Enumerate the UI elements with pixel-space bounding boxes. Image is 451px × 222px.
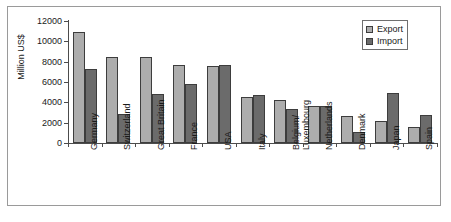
x-axis-category-label: Great Britain (156, 99, 166, 150)
category-label-line: Luxembourg (301, 100, 311, 150)
bar-export (207, 66, 219, 143)
x-axis-tick-mark (403, 143, 404, 147)
bar-export (173, 65, 185, 143)
y-axis-tick-label: 0 (57, 138, 62, 148)
x-axis-category-label: France (189, 122, 199, 150)
x-axis-tick-mark (135, 143, 136, 147)
category-label-line: Denmark (357, 113, 367, 150)
y-axis-tick-label: 6000 (42, 77, 62, 87)
category-label-line: Belgium/ (291, 115, 301, 150)
y-axis-title: Million US$ (16, 22, 26, 92)
category-label-line: Japan (391, 125, 401, 150)
x-axis-category-label: Switzerland (122, 103, 132, 150)
legend-item-import: Import (366, 35, 403, 47)
y-axis-tick-label: 12000 (37, 16, 62, 26)
bar-export (241, 97, 253, 143)
x-axis-tick-mark (236, 143, 237, 147)
category-label-line: Germany (89, 113, 99, 150)
legend-item-export: Export (366, 23, 403, 35)
category-label-line: Spain (424, 127, 434, 150)
x-axis-category-label: Denmark (357, 113, 367, 150)
legend-label-import: Import (377, 36, 403, 46)
category-label-line: Netherlands (324, 101, 334, 150)
x-axis-tick-mark (269, 143, 270, 147)
x-axis-tick-mark (437, 143, 438, 147)
x-axis-tick-mark (102, 143, 103, 147)
y-axis-tick-label: 8000 (42, 57, 62, 67)
x-axis-tick-mark (370, 143, 371, 147)
legend-label-export: Export (377, 24, 403, 34)
bar-group (408, 21, 432, 143)
y-axis-tick-label: 10000 (37, 36, 62, 46)
x-axis-category-label: Germany (89, 113, 99, 150)
legend-swatch-import-icon (366, 38, 373, 45)
x-axis-tick-mark (202, 143, 203, 147)
bar-group (241, 21, 265, 143)
category-label-line: France (189, 122, 199, 150)
bar-export (140, 57, 152, 143)
x-axis-tick-mark (336, 143, 337, 147)
x-axis-category-label: USA (223, 131, 233, 150)
category-label-line: Italy (257, 133, 267, 150)
x-axis-tick-mark (68, 143, 69, 147)
y-axis-tick-label: 4000 (42, 97, 62, 107)
bar-export (274, 100, 286, 143)
y-axis-tick-label: 2000 (42, 118, 62, 128)
category-label-line: Great Britain (156, 99, 166, 150)
bar-export (106, 57, 118, 143)
x-axis-tick-mark (169, 143, 170, 147)
category-label-line: Switzerland (122, 103, 132, 150)
bar-export (341, 116, 353, 143)
x-axis-category-label: Japan (391, 125, 401, 150)
legend-swatch-export-icon (366, 26, 373, 33)
chart-legend: Export Import (362, 20, 408, 50)
category-label-line: USA (223, 131, 233, 150)
x-axis-category-label: Spain (424, 127, 434, 150)
x-axis-category-label: Belgium/Luxembourg (291, 100, 311, 150)
bar-chart-figure: Million US$ 020004000600080001000012000 … (0, 0, 451, 222)
bar-group (207, 21, 231, 143)
x-axis-category-label: Netherlands (324, 101, 334, 150)
bar-export (408, 127, 420, 143)
x-axis-category-label: Italy (257, 133, 267, 150)
bar-export (375, 121, 387, 143)
bar-export (73, 32, 85, 143)
